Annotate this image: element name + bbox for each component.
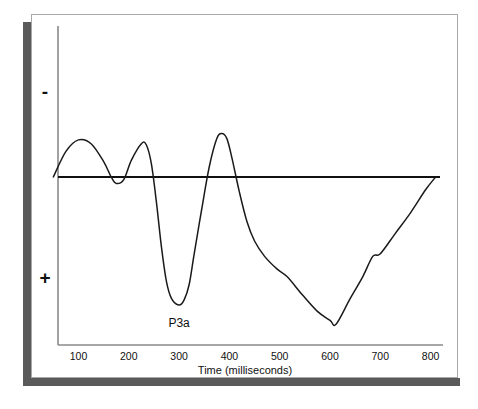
x-tick-label-400: 400 [209,350,249,362]
x-tick-label-300: 300 [159,350,199,362]
frame-shadow-left [23,22,31,386]
x-tick-label-500: 500 [260,350,300,362]
x-tick-label-100: 100 [59,350,99,362]
p3a-annotation-label: P3a [149,316,209,330]
x-tick-label-700: 700 [360,350,400,362]
frame-shadow-bottom [23,378,460,386]
x-tick-label-800: 800 [411,350,451,362]
x-axis-title: Time (milliseconds) [138,364,352,376]
x-tick-label-600: 600 [310,350,350,362]
figure-panel [31,14,458,378]
y-axis-positive-label: + [36,268,54,287]
y-axis-negative-label: - [36,82,54,101]
erp-figure: - + 100200300400500600700800 Time (milli… [0,0,478,409]
x-tick-label-200: 200 [109,350,149,362]
